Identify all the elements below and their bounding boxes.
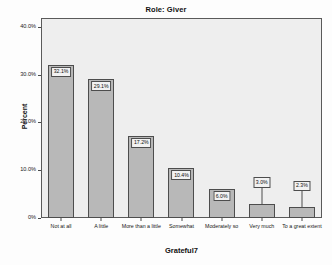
bar-group[interactable]: 17.2% [121,18,161,218]
bar[interactable] [128,136,154,218]
bars-container: 32.1%29.1%17.2%10.4%6.0%3.0%2.3% [41,18,322,218]
y-axis-tick-label: 0% [28,214,36,220]
y-axis: Percent 0%10.0%20.0%30.0%40.0% [0,18,41,218]
y-axis-tick-label: 30.0% [20,71,36,77]
x-axis-tick-mark [141,218,142,221]
x-axis-category-label: To a great extent [280,223,324,230]
bar[interactable] [249,204,275,218]
bar-value-label: 32.1% [51,67,71,77]
bar-label-connector [301,191,302,207]
bar-group[interactable]: 32.1% [41,18,81,218]
y-axis-tick-label: 40.0% [20,23,36,29]
x-axis-category-label: Not at all [39,223,83,230]
bar-value-label: 17.2% [131,138,151,148]
bar-value-label: 2.3% [293,181,310,191]
x-axis-category-label: A little [79,223,123,230]
x-axis-category-label: More than a little [119,223,163,230]
x-axis-category-label: Somewhat [160,223,204,230]
bar[interactable] [48,65,74,218]
x-axis-category-label: Very much [240,223,284,230]
x-axis: Not at allA littleMore than a littleSome… [41,218,322,244]
bar-group[interactable]: 6.0% [202,18,242,218]
bar-group[interactable]: 3.0% [242,18,282,218]
x-axis-tick-mark [101,218,102,221]
bar-value-label: 10.4% [172,170,192,180]
bar-value-label: 6.0% [213,191,230,201]
bar-group[interactable]: 10.4% [161,18,201,218]
bar[interactable] [88,79,114,218]
x-axis-tick-mark [261,218,262,221]
chart-title: Role: Giver [0,5,332,14]
y-axis-tick-label: 10.0% [20,166,36,172]
x-axis-title: Grateful7 [41,246,322,255]
bar-value-label: 29.1% [91,81,111,91]
y-axis-title: Percent [21,87,28,147]
x-axis-category-label: Moderately so [200,223,244,230]
y-axis-tick-label: 20.0% [20,118,36,124]
bar-group[interactable]: 29.1% [81,18,121,218]
bar-value-label: 3.0% [253,177,270,187]
bar[interactable] [289,207,315,218]
x-axis-tick-mark [181,218,182,221]
bar-label-connector [261,188,262,204]
x-axis-tick-mark [301,218,302,221]
bar-chart: Role: Giver Percent 0%10.0%20.0%30.0%40.… [0,0,332,265]
x-axis-tick-mark [221,218,222,221]
x-axis-tick-mark [61,218,62,221]
bar-group[interactable]: 2.3% [282,18,322,218]
